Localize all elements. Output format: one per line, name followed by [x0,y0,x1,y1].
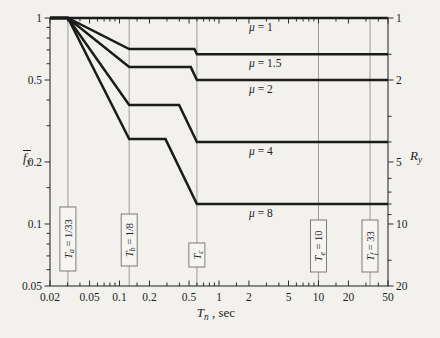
y-left-tick-label: 1 [36,12,42,24]
y-right-tick-label: 2 [396,74,402,86]
x-axis-tick-label: 0.5 [182,291,197,303]
y-right-tick-label: 1 [396,12,402,24]
refline-box-Te: Te = 10 [311,220,327,272]
y-right-tick-label: 10 [396,218,408,230]
x-axis-tick-label: 0.1 [112,291,127,303]
curve-label-mu-1: μ = 1 [248,21,273,34]
figure-page: 0.020.050.10.20.512510205010.50.20.10.05… [0,0,440,338]
refline-box-Tb: Tb = 1/8 [121,214,137,266]
rmu-spectrum-chart: 0.020.050.10.20.512510205010.50.20.10.05… [0,0,440,338]
x-axis-tick-label: 20 [343,291,355,303]
x-axis-title: Tn , sec [197,305,236,322]
y-right-tick-label: 5 [396,156,402,168]
refline-box-Tc: Tc [189,243,205,267]
curve-label-mu-4: μ = 4 [248,145,273,158]
y-left-tick-label: 0.1 [28,218,43,230]
y-left-tick-label: 0.05 [22,280,42,292]
y-right-tick-label: 20 [396,280,408,292]
x-axis-tick-label: 10 [313,291,325,303]
curve-label-mu-1-5: μ = 1.5 [248,57,282,70]
x-axis-tick-label: 2 [246,291,252,303]
y-left-tick-label: 0.5 [28,74,43,86]
x-axis-tick-label: 0.05 [80,291,100,303]
x-axis-tick-label: 0.2 [142,291,157,303]
refline-box-Tf: Tf = 33 [362,220,378,272]
curve-label-mu-8: μ = 8 [248,207,273,220]
x-axis-tick-label: 50 [382,291,394,303]
x-axis-tick-label: 1 [216,291,222,303]
x-axis-tick-label: 0.02 [40,291,60,303]
page-background [0,0,440,338]
x-axis-tick-label: 5 [286,291,292,303]
curve-label-mu-2: μ = 2 [248,83,273,96]
refline-box-Ta: Ta = 1/33 [60,207,76,271]
